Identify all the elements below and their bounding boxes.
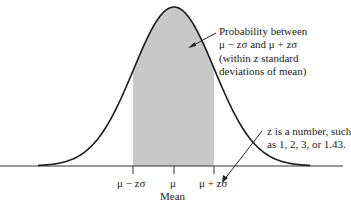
z-note-annotation: z is a number, such as 1, 2, 3, or 1.43. [267, 125, 351, 152]
tick-label-mu: μ [170, 177, 176, 190]
tick-label-mu-plus-z-sigma: μ + zσ [199, 177, 227, 190]
annotation-line: μ − zσ and μ + zσ [219, 38, 307, 51]
annotation-line: as 1, 2, 3, or 1.43. [267, 138, 351, 151]
tick-label-mu-minus-z-sigma: μ − zσ [117, 177, 145, 190]
annotation-line: (within z standard [219, 52, 307, 65]
mean-label: Mean [160, 190, 185, 203]
z-note-leader-line [224, 131, 262, 180]
annotation-line: z is a number, such [267, 125, 351, 138]
annotation-line: deviations of mean) [219, 65, 307, 78]
shaded-region [133, 7, 214, 166]
annotation-line: Probability between [219, 25, 307, 38]
probability-annotation: Probability between μ − zσ and μ + zσ (w… [219, 25, 307, 78]
